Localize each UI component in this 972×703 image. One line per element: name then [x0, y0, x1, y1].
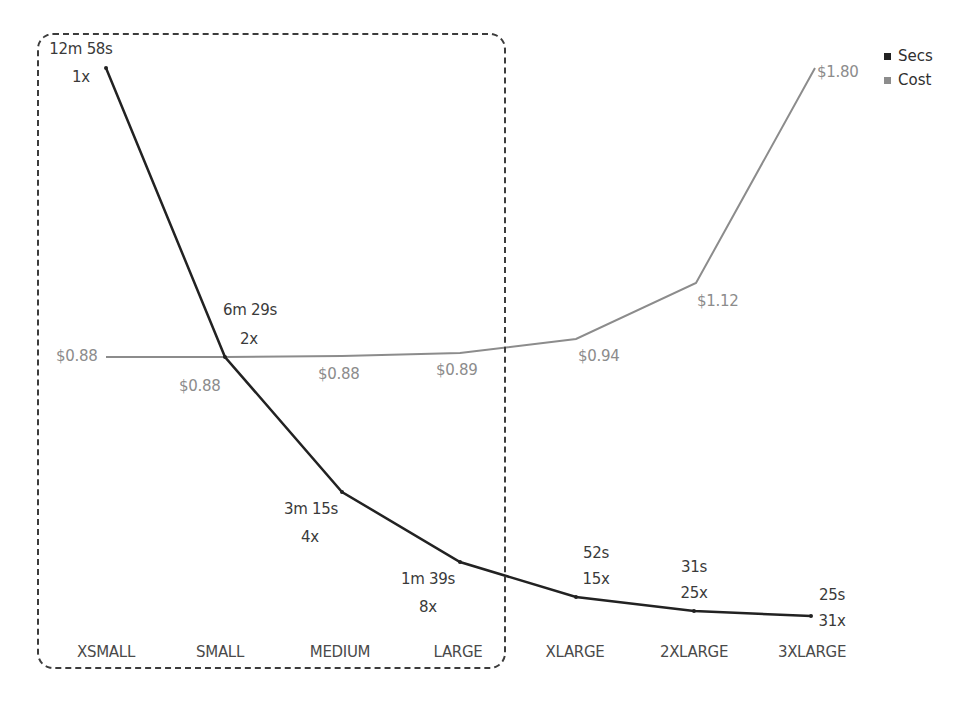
secs-swatch-icon: [884, 53, 891, 60]
cost-label-3xlarge: $1.80: [817, 63, 858, 81]
legend-item-secs: Secs: [884, 44, 933, 68]
speedup-label-medium: 4x: [295, 528, 325, 546]
cost-label-xsmall: $0.88: [56, 347, 97, 365]
speedup-label-2xlarge: 25x: [674, 584, 714, 602]
x-tick-3xlarge: 3XLARGE: [752, 643, 872, 661]
x-tick-large: LARGE: [398, 643, 518, 661]
secs-label-xlarge: 52s: [576, 544, 616, 562]
legend-item-cost: Cost: [884, 68, 933, 92]
cost-label-2xlarge: $1.12: [697, 292, 738, 310]
secs-label-medium: 3m 15s: [276, 500, 346, 518]
secs-label-2xlarge: 31s: [674, 558, 714, 576]
cost-label-xlarge: $0.94: [578, 347, 619, 365]
speedup-label-xlarge: 15x: [576, 570, 616, 588]
cost-label-large: $0.89: [436, 361, 477, 379]
secs-label-xsmall: 12m 58s: [46, 40, 116, 58]
secs-label-small: 6m 29s: [215, 301, 285, 319]
speedup-label-large: 8x: [413, 598, 443, 616]
cost-label-medium: $0.88: [318, 365, 359, 383]
x-tick-2xlarge: 2XLARGE: [634, 643, 754, 661]
legend: Secs Cost: [884, 44, 933, 92]
chart-area: 12m 58s 1x 6m 29s 2x 3m 15s 4x 1m 39s 8x…: [0, 0, 972, 703]
cost-label-small: $0.88: [179, 377, 220, 395]
legend-label-cost: Cost: [898, 71, 931, 89]
x-tick-xlarge: XLARGE: [515, 643, 635, 661]
secs-label-3xlarge: 25s: [812, 586, 852, 604]
x-tick-xsmall: XSMALL: [46, 643, 166, 661]
legend-label-secs: Secs: [898, 47, 933, 65]
secs-label-large: 1m 39s: [393, 570, 463, 588]
x-tick-medium: MEDIUM: [280, 643, 400, 661]
speedup-label-3xlarge: 31x: [812, 612, 852, 630]
cost-swatch-icon: [884, 77, 891, 84]
speedup-label-xsmall: 1x: [66, 68, 96, 86]
x-tick-small: SMALL: [160, 643, 280, 661]
speedup-label-small: 2x: [234, 330, 264, 348]
